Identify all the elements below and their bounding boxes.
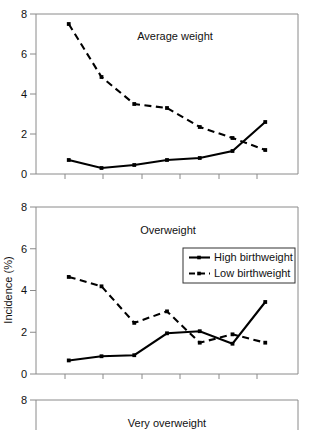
data-point-marker — [231, 332, 235, 336]
data-point-marker — [231, 149, 235, 153]
data-point-marker — [67, 275, 71, 279]
y-tick-label: 4 — [21, 88, 27, 100]
y-axis-ticks — [30, 207, 36, 374]
y-axis-label: Incidence (%) — [2, 256, 14, 323]
y-tick-label: 8 — [21, 394, 27, 406]
y-tick-label: 6 — [21, 243, 27, 255]
data-point-marker — [67, 359, 71, 363]
series-group — [67, 22, 267, 170]
y-tick-label: 0 — [21, 168, 27, 180]
chart-panel-overweight: 8 6 4 2 0 Overweight Incidence (%) — [0, 193, 312, 383]
data-point-marker — [165, 106, 169, 110]
y-tick-label: 4 — [21, 284, 27, 296]
data-point-marker — [132, 102, 136, 106]
data-point-marker — [198, 125, 202, 129]
y-tick-label: 8 — [21, 201, 27, 213]
panel-title-very-overweight: Very overweight — [128, 417, 206, 429]
data-point-marker — [263, 300, 267, 304]
data-point-marker — [198, 341, 202, 345]
y-tick-label: 0 — [21, 368, 27, 380]
panel-overweight-plot: 8 6 4 2 0 Overweight Incidence (%) — [0, 193, 312, 383]
y-axis-tick-labels: 8 6 4 2 0 — [21, 8, 27, 180]
legend-swatch-marker — [197, 272, 201, 276]
data-point-marker — [231, 136, 235, 140]
y-axis-tick-labels: 8 6 4 2 0 — [21, 201, 27, 380]
panel-very-overweight-plot: 8 Very overweight — [0, 386, 312, 430]
x-axis-ticks — [65, 174, 257, 179]
y-tick-label: 2 — [21, 128, 27, 140]
panel-average-weight-plot: 8 6 4 2 0 Average weight — [0, 0, 312, 190]
panel-title-average-weight: Average weight — [137, 30, 213, 42]
data-point-marker — [231, 342, 235, 346]
chart-panel-average-weight: 8 6 4 2 0 Average weight — [0, 0, 312, 190]
data-point-marker — [67, 158, 71, 162]
y-tick-label: 2 — [21, 326, 27, 338]
panel-title-overweight: Overweight — [140, 224, 196, 236]
chart-legend[interactable]: High birthweight Low birthweight — [183, 248, 295, 283]
data-point-marker — [165, 331, 169, 335]
data-point-marker — [100, 75, 104, 79]
data-point-marker — [198, 156, 202, 160]
legend-swatch-marker — [197, 256, 201, 260]
legend-label-high-birthweight: High birthweight — [214, 251, 293, 263]
y-tick-label: 6 — [21, 48, 27, 60]
data-point-marker — [263, 120, 267, 124]
data-point-marker — [100, 166, 104, 170]
data-point-marker — [165, 158, 169, 162]
data-point-marker — [100, 284, 104, 288]
data-point-marker — [100, 354, 104, 358]
y-tick-label: 8 — [21, 8, 27, 20]
data-point-marker — [165, 309, 169, 313]
y-axis-ticks — [30, 14, 36, 174]
chart-panel-very-overweight: 8 Very overweight — [0, 386, 312, 430]
data-point-marker — [263, 148, 267, 152]
series-group — [67, 275, 267, 362]
data-point-marker — [132, 321, 136, 325]
data-point-marker — [263, 341, 267, 345]
data-point-marker — [132, 353, 136, 357]
multi-panel-line-chart: 8 6 4 2 0 Average weight — [0, 0, 312, 430]
data-point-marker — [67, 22, 71, 26]
x-axis-ticks — [65, 374, 257, 379]
series-line-low-birthweight — [69, 24, 266, 150]
data-point-marker — [198, 329, 202, 333]
data-point-marker — [132, 163, 136, 167]
legend-label-low-birthweight: Low birthweight — [214, 267, 290, 279]
